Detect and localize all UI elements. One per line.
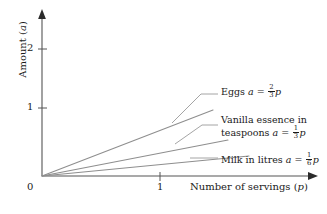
annotation-eggs-fraction: 23: [268, 84, 274, 99]
annotation-eggs-var-p: p: [275, 86, 281, 97]
x-axis-arrowhead: [308, 172, 318, 180]
annotation-vanilla-var-a: a: [273, 127, 279, 138]
chart-container: Amount (a) Number of servings (p) 0 1 1 …: [0, 0, 327, 214]
annotation-milk-name: Milk in litres: [221, 154, 283, 165]
y-axis-title-var: a: [17, 25, 28, 31]
annotation-vanilla-numerator: 1: [293, 125, 299, 132]
annotation-eggs-numerator: 2: [268, 84, 274, 91]
annotation-vanilla: Vanilla essence in teaspoons a = 13p: [221, 114, 307, 140]
series-line-eggs: [42, 110, 213, 176]
annotation-milk-numerator: 1: [306, 152, 312, 159]
annotation-milk-denominator: 6: [306, 159, 312, 167]
annotation-vanilla-fraction: 13: [293, 125, 299, 140]
y-tick-label-1: 1: [27, 101, 33, 113]
annotation-vanilla-var-p: p: [300, 127, 306, 138]
annotation-vanilla-name: teaspoons: [221, 127, 270, 138]
y-axis-title-close: ): [17, 21, 28, 25]
annotation-eggs-name: Eggs: [221, 86, 245, 97]
x-tick-label-1: 1: [157, 181, 163, 193]
y-axis-title-text: Amount (: [17, 31, 28, 78]
annotation-milk-equals: =: [294, 154, 302, 165]
y-axis-title: Amount (a): [17, 8, 28, 92]
annotation-vanilla-line2: teaspoons a = 13p: [221, 125, 307, 140]
annotation-eggs: Eggs a = 23p: [221, 84, 281, 99]
x-axis-title-close: ): [304, 181, 308, 192]
leader-line-eggs: [172, 94, 218, 123]
annotation-milk-fraction: 16: [306, 152, 312, 167]
annotation-vanilla-denominator: 3: [293, 132, 299, 140]
y-tick-label-2: 2: [27, 42, 33, 54]
annotation-milk-var-p: p: [313, 154, 319, 165]
leader-line-vanilla: [175, 125, 218, 144]
annotation-milk: Milk in litres a = 16p: [221, 152, 319, 167]
origin-tick-label: 0: [27, 181, 33, 193]
annotation-vanilla-equals: =: [281, 127, 289, 138]
annotation-milk-var-a: a: [286, 154, 292, 165]
annotation-eggs-var-a: a: [248, 86, 254, 97]
annotation-eggs-equals: =: [257, 86, 265, 97]
x-axis-title: Number of servings (p): [190, 181, 308, 192]
y-axis-arrowhead: [38, 9, 46, 19]
x-axis-title-text: Number of servings (: [190, 181, 298, 192]
annotation-eggs-denominator: 3: [268, 91, 274, 99]
series-line-milk: [42, 156, 249, 176]
